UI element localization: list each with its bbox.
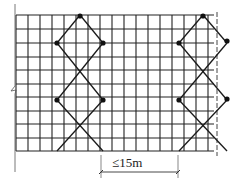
break-symbol-icon [11, 86, 16, 94]
node-dot-icon [224, 96, 229, 101]
node-dot-icon [54, 97, 59, 102]
node-dot-icon [100, 40, 105, 45]
spacing-dimension-label: ≤15m [112, 155, 142, 171]
node-dot-icon [224, 38, 229, 43]
scaffold-grid [16, 15, 214, 151]
node-dot-icon [77, 13, 82, 18]
node-dot-icon [54, 40, 59, 45]
brace-nodes [54, 13, 229, 102]
node-dot-icon [200, 13, 205, 18]
node-dot-icon [176, 40, 181, 45]
node-dot-icon [100, 97, 105, 102]
node-dot-icon [176, 97, 181, 102]
cross-braces [57, 15, 227, 151]
